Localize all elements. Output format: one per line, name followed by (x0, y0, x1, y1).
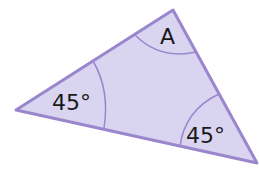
angle-label-bottom-right: 45° (186, 123, 225, 148)
angle-label-left: 45° (52, 90, 91, 115)
triangle-diagram: A 45° 45° (0, 0, 259, 174)
triangle-svg: A 45° 45° (0, 0, 259, 174)
angle-label-top: A (160, 24, 175, 49)
